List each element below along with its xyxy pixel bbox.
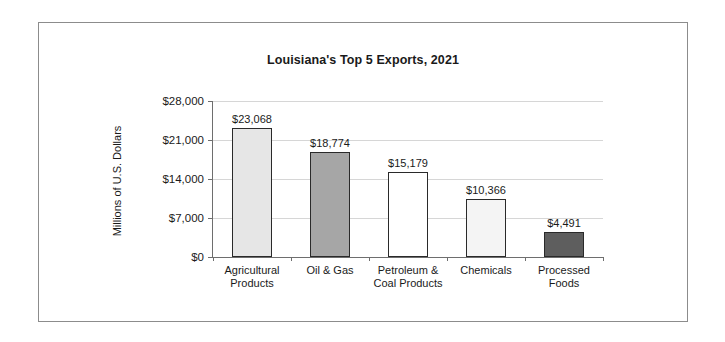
x-axis-line — [213, 257, 603, 258]
bar-value-label: $23,068 — [232, 113, 272, 125]
x-axis-tick-mark — [603, 257, 604, 261]
y-axis-tick-label: $7,000 — [169, 212, 204, 224]
y-axis-line — [212, 101, 213, 258]
x-axis-category-label: Agricultural Products — [213, 264, 291, 290]
chart-title: Louisiana's Top 5 Exports, 2021 — [39, 53, 687, 67]
x-axis-category-label: Chemicals — [447, 264, 525, 277]
y-axis-title: Millions of U.S. Dollars — [111, 91, 129, 271]
gridline — [213, 101, 603, 102]
x-axis-tick-mark — [291, 257, 292, 261]
bar-value-label: $4,491 — [547, 217, 581, 229]
bar-value-label: $18,774 — [310, 137, 350, 149]
bar-value-label: $15,179 — [388, 157, 428, 169]
x-axis-category-label: Petroleum & Coal Products — [369, 264, 447, 290]
x-axis-tick-mark — [213, 257, 214, 261]
x-axis-category-label: Processed Foods — [525, 264, 603, 290]
bar-value-label: $10,366 — [466, 184, 506, 196]
figure-frame: Louisiana's Top 5 Exports, 2021 Millions… — [38, 22, 688, 322]
bar[interactable]: $18,774 — [310, 152, 350, 257]
x-axis-category-label: Oil & Gas — [291, 264, 369, 277]
bar[interactable]: $15,179 — [388, 172, 428, 257]
x-axis-tick-mark — [525, 257, 526, 261]
y-axis-tick-label: $0 — [191, 251, 204, 263]
x-axis-tick-mark — [447, 257, 448, 261]
y-axis-tick-label: $28,000 — [162, 95, 204, 107]
plot-area: $0$7,000$14,000$21,000$28,000 $23,068$18… — [213, 101, 603, 257]
bar[interactable]: $23,068 — [232, 128, 272, 257]
y-axis-tick-label: $14,000 — [162, 173, 204, 185]
x-axis-tick-mark — [369, 257, 370, 261]
y-axis-tick-label: $21,000 — [162, 134, 204, 146]
bar[interactable]: $4,491 — [544, 232, 584, 257]
bar[interactable]: $10,366 — [466, 199, 506, 257]
